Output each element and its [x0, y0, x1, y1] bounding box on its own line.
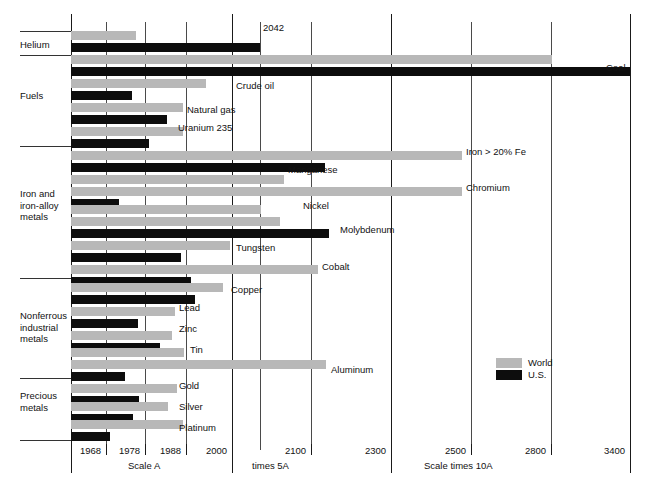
bar-label-tungsten: Tungsten — [236, 243, 275, 253]
bar-world-aluminum — [71, 360, 326, 369]
bar-label-chromium: Chromium — [466, 183, 510, 193]
gridline-2300 — [391, 14, 392, 473]
bar-us-lead — [71, 319, 138, 328]
category-rule-nonferrous — [20, 378, 71, 379]
tick-label-1968: 1968 — [80, 445, 101, 456]
bar-world-tin — [71, 348, 184, 357]
bar-us-uranium — [71, 139, 149, 148]
category-rule-iron — [20, 278, 71, 279]
bar-world-molybdenum — [71, 217, 280, 226]
bar-world-natural-gas — [71, 103, 183, 112]
category-label-precious: Precious metals — [20, 390, 57, 413]
tick-mark-2100 — [311, 444, 312, 455]
tick-label-2100: 2100 — [285, 445, 306, 456]
resource-exhaustion-chart: Coal Crude oil Natural gas Uranium 235 I… — [0, 0, 649, 484]
category-label-nonferrous: Nonferrous industrial metals — [20, 310, 67, 345]
scale-label-a: Scale A — [128, 460, 160, 471]
scale-label-10a: Scale times 10A — [424, 460, 493, 471]
tick-label-2800: 2800 — [525, 445, 546, 456]
category-label-helium: Helium — [20, 39, 50, 51]
bar-label-gold: Gold — [179, 381, 199, 391]
category-rule-precious — [20, 440, 71, 441]
tick-label-1988: 1988 — [160, 445, 181, 456]
legend-swatch-world-icon — [496, 358, 522, 368]
bar-label-lead: Lead — [179, 303, 200, 313]
bar-label-nickel: Nickel — [303, 201, 329, 211]
bar-world-tungsten — [71, 241, 230, 250]
bar-world-platinum — [71, 420, 183, 429]
tick-mark-1988 — [186, 444, 187, 455]
bar-label-platinum: Platinum — [179, 423, 216, 433]
tick-mark-2000 — [232, 444, 233, 455]
tick-label-1978: 1978 — [119, 445, 140, 456]
bar-world-gold — [71, 384, 177, 393]
bar-label-molybdenum: Molybdenum — [340, 225, 394, 235]
category-label-iron: Iron and iron-alloy metals — [20, 188, 59, 223]
axis-y-right — [630, 14, 631, 473]
bar-us-helium — [71, 43, 260, 52]
bar-world-silver — [71, 402, 168, 411]
bar-label-iron: Iron > 20% Fe — [466, 147, 526, 157]
bar-world-cobalt — [71, 265, 318, 274]
bar-label-coal: Coal — [606, 63, 626, 73]
bar-label-zinc: Zinc — [179, 324, 197, 334]
bar-world-iron — [71, 151, 462, 160]
tick-label-3400: 3400 — [604, 445, 625, 456]
gridline-2000 — [232, 14, 233, 473]
bar-us-natural-gas — [71, 115, 167, 124]
category-rule-top — [20, 31, 71, 32]
scale-label-5a: times 5A — [252, 460, 289, 471]
tick-mark-2500 — [471, 444, 472, 455]
tick-mark-1978 — [145, 444, 146, 455]
bar-world-nickel — [71, 205, 261, 214]
bar-label-silver: Silver — [179, 402, 203, 412]
tick-mark-2800 — [551, 444, 552, 455]
tick-mark-3400 — [630, 444, 631, 455]
bar-world-copper — [71, 283, 223, 292]
bar-world-crude-oil — [71, 79, 206, 88]
gridline-2500 — [471, 22, 472, 450]
bar-label-copper: Copper — [231, 285, 262, 295]
bar-us-crude-oil — [71, 91, 132, 100]
bar-us-molybdenum — [71, 229, 329, 238]
tick-label-2300: 2300 — [365, 445, 386, 456]
legend-swatch-us-icon — [496, 370, 522, 380]
bar-label-manganese: Manganese — [288, 165, 338, 175]
category-label-fuels: Fuels — [20, 90, 43, 102]
bar-label-aluminum: Aluminum — [331, 365, 373, 375]
bar-world-coal — [71, 55, 552, 64]
bar-us-iron — [71, 163, 325, 172]
bar-us-tungsten — [71, 253, 181, 262]
legend-label-us: U.S. — [528, 370, 546, 380]
bar-world-lead — [71, 307, 175, 316]
category-rule-fuels — [20, 146, 71, 147]
annotation-helium-year: 2042 — [263, 22, 284, 33]
bar-us-copper — [71, 295, 195, 304]
gridline-2800 — [551, 22, 552, 450]
tick-mark-1968 — [106, 444, 107, 455]
bar-world-zinc — [71, 331, 172, 340]
bar-world-chromium — [71, 187, 462, 196]
bar-label-crude-oil: Crude oil — [236, 81, 274, 91]
bar-label-cobalt: Cobalt — [322, 262, 349, 272]
legend-label-world: World — [528, 358, 553, 368]
bar-label-natural-gas: Natural gas — [187, 105, 236, 115]
tick-label-2500: 2500 — [445, 445, 466, 456]
category-rule-helium — [20, 55, 71, 56]
bar-us-coal — [71, 67, 630, 76]
tick-label-2000: 2000 — [206, 445, 227, 456]
tick-mark-2300 — [391, 444, 392, 455]
bar-world-uranium — [71, 127, 183, 136]
bar-us-platinum — [71, 432, 110, 441]
bar-us-aluminum — [71, 372, 125, 381]
bar-world-manganese — [71, 175, 284, 184]
bar-label-uranium: Uranium 235 — [178, 123, 232, 133]
bar-label-tin: Tin — [190, 345, 203, 355]
bar-world-helium — [71, 31, 136, 40]
